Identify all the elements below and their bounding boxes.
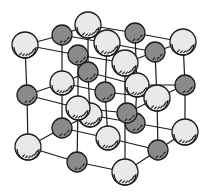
large-ion-sphere [94, 30, 120, 56]
small-ion-sphere [117, 103, 137, 123]
small-ion-sphere [17, 85, 37, 105]
large-ion-sphere [15, 134, 41, 160]
large-ion-sphere [172, 119, 198, 145]
small-ion-sphere [52, 118, 72, 138]
large-ion-sphere [112, 50, 138, 76]
small-ion-sphere [145, 42, 165, 62]
large-ion-sphere [144, 85, 170, 111]
large-ion-sphere [12, 32, 38, 58]
lattice-svg [0, 0, 210, 195]
large-ion-sphere [112, 159, 138, 185]
small-ion-sphere [148, 140, 168, 160]
small-ion-sphere [67, 152, 87, 172]
large-ion-sphere [50, 71, 74, 95]
small-ion-sphere [95, 82, 115, 102]
large-ion-sphere [96, 126, 120, 150]
small-ion-sphere [78, 62, 98, 82]
large-ion-sphere [170, 29, 196, 55]
large-ion-sphere [66, 96, 90, 120]
small-ion-sphere [175, 75, 195, 95]
small-ion-sphere [125, 23, 145, 43]
small-ion-sphere [52, 25, 72, 45]
crystal-lattice-diagram [0, 0, 210, 195]
